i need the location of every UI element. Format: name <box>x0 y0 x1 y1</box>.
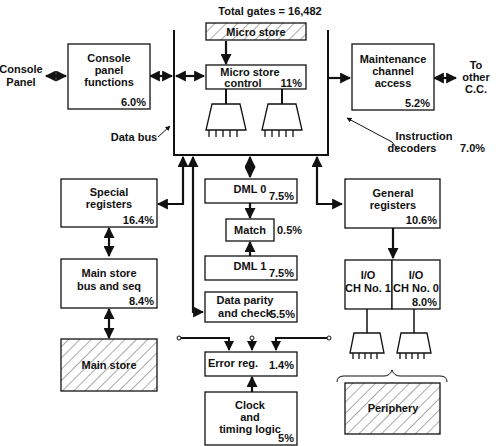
instruction-decoders-label-2: decoders <box>388 142 437 154</box>
block-label: Clock <box>235 399 266 411</box>
block-label: Main store <box>81 359 136 371</box>
block-label: Periphery <box>368 402 420 414</box>
block-label: registers <box>370 199 416 211</box>
to-other-cc-label-3: C.C. <box>465 83 487 95</box>
block-pct: 11% <box>281 77 303 89</box>
block-label: access <box>375 77 412 89</box>
block-pct: 8.4% <box>129 295 154 307</box>
block-label: timing logic <box>219 423 281 435</box>
block-label: CH No. 0 <box>393 282 439 294</box>
block-label: registers <box>86 198 132 210</box>
console-panel-label-2: Panel <box>6 76 35 88</box>
block-label: CH No. 1 <box>345 282 391 294</box>
to-other-cc-label: To <box>470 59 483 71</box>
block-label: Special <box>90 186 129 198</box>
block-pct: 7.5% <box>269 190 294 202</box>
block-label: DML 0 <box>234 183 267 195</box>
to-other-cc-label-2: other <box>462 71 490 83</box>
data-bus-label: Data bus <box>111 131 157 143</box>
block-label: DML 1 <box>234 260 267 272</box>
block-pct: 5.2% <box>405 97 430 109</box>
block-label: control <box>224 77 261 89</box>
block-label: Micro store <box>226 26 285 38</box>
instruction-decoders-pct: 7.0% <box>460 142 485 154</box>
block-label: channel <box>372 65 414 77</box>
block-pct: 5% <box>278 432 294 444</box>
block-pct: 16.4% <box>123 214 154 226</box>
block-label: panel <box>95 64 124 76</box>
block-label: bus and seq <box>77 280 141 292</box>
block-label: Match <box>234 224 266 236</box>
block-label: Main store <box>81 267 136 279</box>
block-label: Data parity <box>217 294 275 306</box>
block-label: functions <box>84 76 134 88</box>
block-label: Console <box>87 52 130 64</box>
total-gates-title: Total gates = 16,482 <box>218 5 321 17</box>
console-panel-label: Console <box>0 63 43 75</box>
block-label: and <box>240 411 260 423</box>
block-label: Maintenance <box>360 53 427 65</box>
block-label: I/O <box>361 269 376 281</box>
block-label: Error reg. <box>208 357 258 369</box>
block-pct: 10.6% <box>406 214 437 226</box>
block-pct: 0.5% <box>277 224 302 236</box>
block-label: and check <box>218 307 273 319</box>
block-pct: 7.5% <box>269 267 294 279</box>
block-pct: 6.0% <box>121 96 146 108</box>
block-label: I/O <box>409 269 424 281</box>
block-pct: 8.0% <box>412 296 437 308</box>
instruction-decoders-label: Instruction <box>396 130 453 142</box>
block-label: General <box>373 187 414 199</box>
block-pct: 1.4% <box>269 359 294 371</box>
block-pct: 5.5% <box>270 308 295 320</box>
block-diagram: Total gates = 16,482 Console Panel To ot… <box>0 0 496 446</box>
